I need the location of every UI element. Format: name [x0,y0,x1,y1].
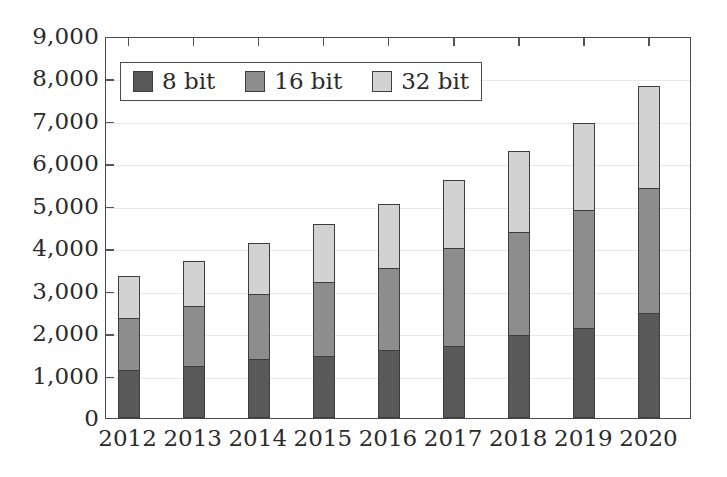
y-axis-tick-label: 8,000 [7,67,99,90]
y-axis-tick-mark [105,122,114,123]
y-axis-tick-label: 3,000 [7,280,99,303]
y-axis-tick-label: 6,000 [7,152,99,175]
bar-segment-32-bit[interactable] [508,151,530,233]
legend-label: 32 bit [401,70,469,93]
y-axis-tick-mark [105,79,114,80]
legend-entry[interactable]: 16 bit [245,70,342,93]
legend-entry[interactable]: 32 bit [372,70,469,93]
y-axis-tick-mark [105,207,114,208]
bar-segment-16-bit[interactable] [248,294,270,360]
x-axis-tick-mark-top [648,37,649,46]
y-axis: 01,0002,0003,0004,0005,0006,0007,0008,00… [0,0,99,477]
bar-segment-32-bit[interactable] [638,86,660,189]
chart-legend: 8 bit16 bit32 bit [120,62,482,101]
bar-segment-16-bit[interactable] [378,268,400,351]
bar-segment-16-bit[interactable] [638,188,660,315]
bar-segment-8-bit[interactable] [443,346,465,418]
legend-swatch-icon [245,71,265,92]
bar-segment-16-bit[interactable] [443,248,465,347]
bar-segment-16-bit[interactable] [118,318,140,371]
legend-label: 16 bit [274,70,342,93]
bar-segment-16-bit[interactable] [573,210,595,328]
bar-segment-8-bit[interactable] [248,359,270,418]
bar-segment-16-bit[interactable] [183,306,205,367]
stacked-bar-chart-figure: 01,0002,0003,0004,0005,0006,0007,0008,00… [0,0,727,477]
x-axis-tick-mark-top [518,37,519,46]
y-axis-tick-label: 9,000 [7,25,99,48]
bar-segment-16-bit[interactable] [313,282,335,357]
bar-segment-32-bit[interactable] [313,224,335,283]
bar-segment-8-bit[interactable] [118,370,140,418]
bar-segment-32-bit[interactable] [573,123,595,212]
bar-segment-32-bit[interactable] [248,243,270,296]
x-axis-tick-mark-top [193,37,194,46]
legend-entry[interactable]: 8 bit [133,70,215,93]
x-axis-tick-mark-top [258,37,259,46]
y-axis-tick-label: 1,000 [7,365,99,388]
bar-segment-32-bit[interactable] [443,180,465,249]
y-axis-tick-mark [105,334,114,335]
y-axis-tick-mark [105,37,114,38]
y-axis-tick-label: 5,000 [7,195,99,218]
x-axis-tick-mark-top [388,37,389,46]
bar-segment-32-bit[interactable] [118,276,140,320]
y-axis-tick-label: 7,000 [7,110,99,133]
y-axis-tick-mark [105,164,114,165]
y-axis-tick-mark [105,292,114,293]
bar-segment-8-bit[interactable] [183,366,205,418]
x-axis-tick-mark-top [323,37,324,46]
bar-segment-8-bit[interactable] [508,335,530,418]
bar-segment-8-bit[interactable] [638,313,660,418]
x-axis-tick-mark-top [453,37,454,46]
bar-segment-8-bit[interactable] [378,350,400,418]
legend-label: 8 bit [162,70,215,93]
bar-segment-32-bit[interactable] [378,204,400,269]
x-axis-tick-mark-top [128,37,129,46]
y-axis-tick-mark [105,377,114,378]
bar-segment-32-bit[interactable] [183,261,205,308]
bar-segment-8-bit[interactable] [573,328,595,418]
gridline [106,165,690,166]
y-axis-tick-label: 2,000 [7,322,99,345]
y-axis-tick-label: 4,000 [7,237,99,260]
bar-segment-16-bit[interactable] [508,232,530,336]
y-axis-tick-mark [105,249,114,250]
x-axis-tick-label: 2020 [606,426,690,450]
bar-segment-8-bit[interactable] [313,356,335,418]
legend-swatch-icon [372,71,392,92]
x-axis-tick-mark-top [583,37,584,46]
legend-swatch-icon [133,71,153,92]
gridline [106,123,690,124]
